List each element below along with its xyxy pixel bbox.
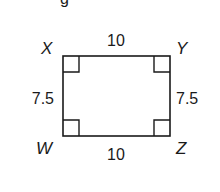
vertex-label-y: Y xyxy=(176,39,189,58)
vertex-label-x: X xyxy=(40,39,53,58)
right-angle-marker-x xyxy=(63,56,79,72)
partial-caption-text: g xyxy=(60,0,69,7)
right-angle-marker-y xyxy=(154,56,170,72)
vertex-label-w: W xyxy=(36,139,54,158)
side-length-left: 7.5 xyxy=(32,90,54,107)
rectangle-diagram: g X Y W Z 10 10 7.5 7.5 xyxy=(0,0,220,192)
vertex-label-z: Z xyxy=(175,139,187,158)
side-length-top: 10 xyxy=(107,32,125,49)
right-angle-marker-w xyxy=(63,120,79,136)
side-length-bottom: 10 xyxy=(107,146,125,163)
right-angle-marker-z xyxy=(154,120,170,136)
side-length-right: 7.5 xyxy=(176,90,198,107)
